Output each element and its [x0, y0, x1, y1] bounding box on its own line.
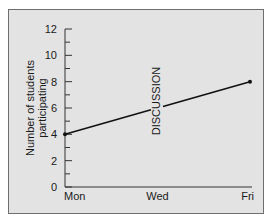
y-tick-label: 0 — [51, 181, 57, 193]
y-tick-label: 2 — [51, 155, 57, 167]
y-axis-title-line2: participating — [36, 78, 48, 137]
x-tick-label: Fri — [241, 190, 254, 202]
discussion-annotation: DISCUSSION — [150, 67, 162, 136]
y-tick-label: 6 — [51, 102, 57, 114]
x-tick-label: Wed — [146, 190, 168, 202]
y-tick-label: 10 — [45, 49, 57, 61]
y-tick-label: 4 — [51, 128, 57, 140]
line-chart: 024681012MonWedFri Number of students pa… — [0, 0, 268, 221]
data-point — [63, 132, 67, 136]
y-axis-title-line1: Number of students — [24, 60, 36, 156]
series-line — [65, 110, 151, 134]
data-point — [248, 80, 252, 84]
x-tick-label: Mon — [64, 190, 85, 202]
y-tick-label: 12 — [45, 23, 57, 35]
series-line — [163, 82, 250, 107]
y-tick-label: 8 — [51, 76, 57, 88]
